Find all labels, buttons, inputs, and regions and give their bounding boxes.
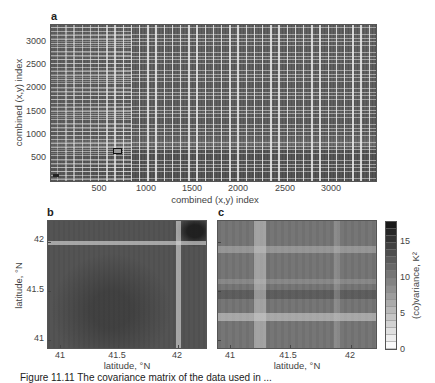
ytick-b: 41 — [22, 333, 44, 343]
colorbar-tick: 0 — [400, 344, 405, 354]
colorbar-segment — [386, 271, 396, 278]
colorbar-segment — [386, 307, 396, 314]
xtick-a: 1500 — [177, 183, 207, 193]
xtick-c: 42 — [339, 350, 361, 360]
colorbar-segment — [386, 257, 396, 264]
ytick-mark — [48, 242, 51, 243]
xtick-a: 1000 — [131, 183, 161, 193]
ytick-b: 42 — [22, 234, 44, 244]
figure-caption: Figure 11.11 The covariance matrix of th… — [20, 372, 272, 383]
colorbar-tick: 15 — [400, 236, 410, 246]
heatmap-panel-b — [47, 220, 207, 349]
ytick-b: 41.5 — [22, 284, 44, 294]
colorbar-segment — [386, 300, 396, 307]
xlabel-a: combined (x,y) index — [150, 194, 280, 205]
colorbar-segment — [386, 293, 396, 300]
heatmap-panel-a — [50, 24, 377, 182]
ytick-mark — [218, 291, 221, 292]
xtick-mark — [118, 345, 119, 348]
colorbar-segment — [386, 236, 396, 243]
colorbar-segment — [386, 243, 396, 250]
xtick-c: 41 — [219, 350, 241, 360]
colorbar-tick: 5 — [400, 308, 405, 318]
xtick-a: 2500 — [270, 183, 300, 193]
heatmap-panel-c — [217, 220, 377, 349]
ytick-mark — [218, 340, 221, 341]
xtick-a: 500 — [84, 183, 114, 193]
xtick-mark — [230, 345, 231, 348]
ylabel-a: combined (x,y) index — [13, 48, 24, 158]
colorbar — [385, 221, 397, 350]
xtick-mark — [178, 345, 179, 348]
panel-label-a: a — [51, 10, 57, 22]
xlabel-c: latitude, °N — [257, 360, 337, 371]
colorbar-label: (co)variance, K² — [410, 241, 421, 331]
corner-marker — [53, 174, 59, 177]
ylabel-b: latitude, °N — [13, 246, 24, 326]
ytick-a: 3000 — [18, 36, 46, 46]
panel-label-c: c — [218, 206, 224, 218]
xlabel-b: latitude, °N — [87, 360, 167, 371]
xtick-c: 41.5 — [275, 350, 301, 360]
colorbar-segment — [386, 229, 396, 236]
ytick-mark — [48, 340, 51, 341]
xtick-mark — [351, 345, 352, 348]
xtick-b: 41 — [49, 350, 71, 360]
colorbar-segment — [386, 286, 396, 293]
panel-label-b: b — [47, 206, 54, 218]
xtick-a: 2000 — [223, 183, 253, 193]
highlight-box — [113, 148, 122, 154]
ytick-mark — [48, 291, 51, 292]
xtick-b: 42 — [166, 350, 188, 360]
colorbar-segment — [386, 222, 396, 229]
ytick-mark — [218, 242, 221, 243]
stripe-overlay — [51, 25, 131, 181]
colorbar-segment — [386, 279, 396, 286]
colorbar-segment — [386, 321, 396, 328]
xtick-mark — [60, 345, 61, 348]
colorbar-segment — [386, 250, 396, 257]
xtick-mark — [290, 345, 291, 348]
colorbar-segment — [386, 342, 396, 349]
colorbar-segment — [386, 264, 396, 271]
colorbar-segment — [386, 314, 396, 321]
xtick-a: 3000 — [316, 183, 346, 193]
colorbar-segment — [386, 335, 396, 342]
xtick-b: 41.5 — [104, 350, 130, 360]
colorbar-tick: 10 — [400, 272, 410, 282]
colorbar-segment — [386, 328, 396, 335]
